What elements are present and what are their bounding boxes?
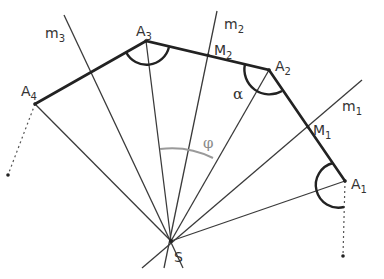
end-dot-a4: [6, 173, 10, 177]
label-alpha: α: [233, 85, 243, 103]
dotted-lines: [8, 104, 345, 256]
dotted-a4: [8, 104, 35, 175]
angle-arcs: [126, 47, 344, 208]
line-m1: [142, 80, 362, 268]
label-line-m2: m2: [224, 16, 244, 35]
label-s: S: [174, 249, 183, 265]
end-dot-a1: [341, 254, 345, 258]
label-line-m3: m3: [45, 25, 65, 44]
polygon-edges: [35, 41, 345, 181]
ray-s-a2: [171, 70, 269, 241]
label-a3: A3: [136, 23, 152, 42]
label-line-m1: m1: [342, 98, 362, 117]
polygon-diagram: S A1 A2 A3 A4 M1 M2 m1 m2 m3 α φ: [0, 0, 384, 279]
dotted-a1: [343, 181, 345, 256]
ray-s-a3: [146, 41, 171, 241]
ray-s-a1: [171, 181, 345, 241]
label-phi: φ: [203, 134, 214, 152]
label-a2: A2: [275, 58, 291, 77]
label-a4: A4: [21, 83, 37, 102]
angle-arc-a1: [316, 163, 344, 208]
rays: [35, 11, 362, 268]
label-a1: A1: [351, 176, 367, 195]
ray-s-a4: [35, 104, 171, 241]
polygon-path: [35, 41, 345, 181]
